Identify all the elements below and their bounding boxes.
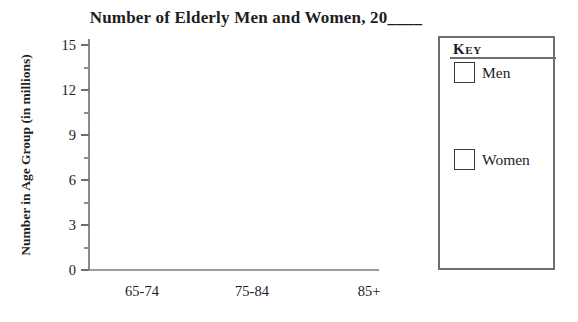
- y-tick-label: 3: [50, 217, 76, 233]
- y-axis-label: Number in Age Group (in millions): [18, 54, 34, 256]
- legend-item-men: Men: [454, 62, 510, 83]
- chart-title: Number of Elderly Men and Women, 20____: [0, 8, 512, 28]
- y-tick-label: 6: [50, 172, 76, 188]
- y-axis-major-tick: [81, 179, 89, 181]
- y-axis-major-tick: [81, 269, 89, 271]
- y-tick-label: 12: [50, 82, 76, 98]
- y-axis-line: [88, 39, 90, 271]
- y-axis-major-tick: [81, 224, 89, 226]
- men-swatch-square: [454, 62, 475, 83]
- y-axis-major-tick: [81, 134, 89, 136]
- women-swatch-square: [454, 149, 475, 170]
- y-tick-label: 15: [50, 37, 76, 53]
- y-tick-label: 9: [50, 127, 76, 143]
- chart-canvas: Number of Elderly Men and Women, 20____ …: [0, 0, 578, 322]
- legend-item-women: Women: [454, 149, 530, 170]
- y-tick-label: 0: [50, 262, 76, 278]
- y-axis-minor-tick: [84, 157, 89, 159]
- y-axis-minor-tick: [84, 202, 89, 204]
- legend-item-label: Men: [482, 65, 510, 81]
- y-axis-minor-tick: [84, 247, 89, 249]
- legend-key-box: Key Men Women: [438, 36, 555, 270]
- y-axis-minor-tick: [84, 112, 89, 114]
- legend-title: Key: [453, 41, 482, 58]
- y-axis-major-tick: [81, 89, 89, 91]
- x-category-label: 65-74: [125, 283, 159, 300]
- x-category-label: 75-84: [235, 283, 269, 300]
- legend-header-rule: [450, 57, 556, 59]
- x-axis-line: [88, 269, 379, 271]
- y-axis-minor-tick: [84, 67, 89, 69]
- x-category-label: 85+: [358, 283, 381, 300]
- legend-item-label: Women: [482, 152, 530, 168]
- y-axis-major-tick: [81, 44, 89, 46]
